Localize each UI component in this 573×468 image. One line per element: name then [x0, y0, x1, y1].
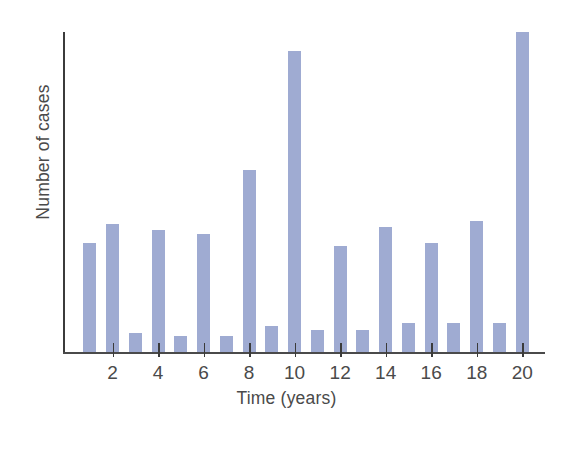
bar [356, 330, 369, 352]
bar [174, 336, 187, 352]
bar [243, 170, 256, 352]
bar-chart-figure: Number of cases 2468101214161820 Time (y… [0, 0, 573, 468]
bar [447, 323, 460, 352]
x-axis-tick [431, 343, 433, 357]
plot-area: 2468101214161820 [67, 32, 545, 352]
x-axis-tick-label: 8 [229, 362, 269, 384]
x-axis-tick [522, 343, 524, 357]
bar [470, 221, 483, 352]
bar [288, 51, 301, 352]
bar [402, 323, 415, 352]
x-axis-tick [477, 343, 479, 357]
x-axis-tick-label: 12 [320, 362, 360, 384]
bar [106, 224, 119, 352]
x-axis-tick-label: 4 [138, 362, 178, 384]
bar [197, 234, 210, 352]
x-axis-tick [295, 343, 297, 357]
x-axis-tick [386, 343, 388, 357]
x-axis-tick-label: 20 [502, 362, 542, 384]
x-axis-tick-label: 18 [457, 362, 497, 384]
y-axis-title: Number of cases [26, 0, 60, 312]
x-axis-tick-label: 16 [411, 362, 451, 384]
bar [265, 326, 278, 352]
bar [129, 333, 142, 352]
x-axis-tick [340, 343, 342, 357]
bar [516, 32, 529, 352]
x-axis-tick-label: 14 [366, 362, 406, 384]
x-axis-tick-label: 6 [184, 362, 224, 384]
bar [152, 230, 165, 352]
x-axis-tick [204, 343, 206, 357]
bar [493, 323, 506, 352]
x-axis-line [63, 352, 545, 354]
x-axis-tick [158, 343, 160, 357]
x-axis-tick [113, 343, 115, 357]
bar [83, 243, 96, 352]
x-axis-tick-label: 2 [93, 362, 133, 384]
x-axis-tick-label: 10 [275, 362, 315, 384]
x-axis-title: Time (years) [0, 388, 573, 409]
x-axis-tick [249, 343, 251, 357]
bar [311, 330, 324, 352]
bar [334, 246, 347, 352]
bar [379, 227, 392, 352]
bar [425, 243, 438, 352]
y-axis-line [63, 32, 65, 353]
bar [220, 336, 233, 352]
